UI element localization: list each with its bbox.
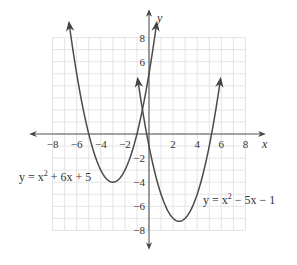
axes: [33, 13, 262, 246]
y-tick-label: −4: [133, 176, 145, 188]
x-tick-label: 2: [170, 138, 176, 150]
equation-label-2: y = x2 − 5x − 1: [203, 192, 275, 207]
y-tick-label: −2: [133, 152, 145, 164]
graph: −8−6−4−2246886−2−4−6−8 x y y = x2 + 6x +…: [0, 0, 297, 265]
y-tick-label: 6: [140, 56, 146, 68]
equation-label-1: y = x2 + 6x + 5: [19, 169, 91, 184]
x-tick-label: −6: [71, 138, 83, 150]
y-tick-label: −8: [133, 224, 145, 236]
x-tick-label: 6: [219, 138, 225, 150]
y-axis-label: y: [156, 11, 163, 25]
x-tick-label: −2: [119, 138, 131, 150]
y-tick-label: 8: [140, 32, 146, 44]
x-tick-label: 8: [243, 138, 249, 150]
x-tick-label: −8: [47, 138, 59, 150]
x-tick-label: −4: [95, 138, 107, 150]
x-tick-label: 4: [194, 138, 200, 150]
y-tick-label: −6: [133, 200, 145, 212]
x-axis-label: x: [261, 137, 268, 151]
